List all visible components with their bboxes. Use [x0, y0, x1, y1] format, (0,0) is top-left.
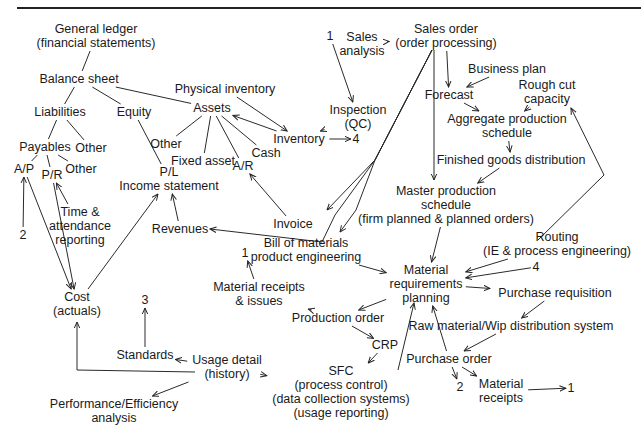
- node-label-line: Cost: [53, 290, 101, 304]
- edge-usage-detail-to-cost: [77, 322, 195, 372]
- node-label-line: reporting: [49, 233, 111, 247]
- node-label-line: (firm planned & planned orders): [358, 212, 534, 226]
- node-forecast: Forecast: [425, 88, 474, 102]
- node-label-line: 3: [142, 293, 149, 307]
- node-label-line: 1: [242, 246, 249, 260]
- node-label-line: P/L: [119, 165, 218, 179]
- node-ref-1-bottom: 1: [568, 381, 575, 395]
- node-label-line: Rough cut: [519, 78, 576, 92]
- edge-mps-to-mrp: [432, 227, 441, 262]
- node-label-line: Sales: [339, 30, 384, 44]
- node-label-line: Other: [75, 141, 106, 155]
- node-rough-cut: Rough cutcapacity: [519, 78, 576, 106]
- node-ar: A/R: [233, 159, 254, 173]
- node-finished-goods: Finished goods distribution: [437, 153, 586, 167]
- node-label-line: Routing: [483, 230, 631, 244]
- node-label-line: Finished goods distribution: [437, 153, 586, 167]
- node-cash: Cash: [251, 146, 280, 160]
- node-label-line: A/P: [14, 162, 34, 176]
- edge-balance-sheet-to-liabilities: [65, 87, 75, 104]
- node-liabilities: Liabilities: [34, 105, 85, 119]
- node-ref-1-top: 1: [327, 29, 334, 43]
- node-physical-inventory: Physical inventory: [175, 82, 276, 96]
- node-label-line: Cash: [251, 146, 280, 160]
- edge-balance-sheet-to-equity: [92, 87, 120, 104]
- node-payables: Payables: [19, 140, 70, 154]
- node-revenues: Revenues: [152, 222, 208, 236]
- node-ref-3: 3: [142, 293, 149, 307]
- node-label-line: receipts: [479, 391, 523, 405]
- node-sales-analysis: Salesanalysis: [339, 30, 384, 58]
- node-label-line: Forecast: [425, 88, 474, 102]
- edge-payables-to-ap: [32, 155, 38, 161]
- node-pl: P/LIncome statement: [119, 165, 218, 193]
- node-label-line: Payables: [19, 140, 70, 154]
- edge-assets-to-ar: [216, 116, 238, 158]
- node-performance: Performance/Efficiencyanalysis: [50, 397, 178, 425]
- node-raw-material: Raw material/Wip distribution system: [409, 319, 614, 333]
- node-label-line: requirements: [390, 277, 463, 291]
- edge-liabilities-to-liab-other: [67, 120, 84, 140]
- node-label-line: CRP: [372, 338, 398, 352]
- node-label-line: Production order: [292, 311, 384, 325]
- node-general-ledger: General ledger(financial statements): [37, 22, 156, 50]
- node-label-line: Business plan: [468, 62, 546, 76]
- node-label-line: Other: [65, 162, 96, 176]
- node-label-line: analysis: [339, 44, 384, 58]
- node-label-line: 1: [327, 29, 334, 43]
- node-material-receipts: Materialreceipts: [479, 377, 523, 405]
- node-ref-2-po: 2: [457, 380, 464, 394]
- node-label-line: 2: [20, 228, 27, 242]
- node-label-line: (order processing): [395, 36, 496, 50]
- node-assets: Assets: [193, 101, 231, 115]
- node-label-line: Aggregate production: [447, 112, 567, 126]
- node-label-line: (data collection systems): [272, 392, 410, 406]
- edge-forecast-to-aggregate: [464, 103, 479, 111]
- edge-crp-to-sfc: [368, 353, 377, 363]
- node-ref-2-left: 2: [20, 228, 27, 242]
- node-inventory: Inventory: [273, 132, 324, 146]
- node-label-line: Physical inventory: [175, 82, 276, 96]
- edge-payables-to-pay-other: [58, 155, 68, 161]
- edge-assets-to-assets-other: [176, 116, 202, 136]
- node-label-line: Performance/Efficiency: [50, 397, 178, 411]
- node-label-line: Equity: [117, 105, 152, 119]
- node-label-line: (history): [192, 367, 262, 381]
- node-label-line: Purchase requisition: [498, 286, 611, 300]
- node-label-line: Liabilities: [34, 105, 85, 119]
- node-label-line: Material receipts: [213, 280, 305, 294]
- node-pay-other: Other: [65, 162, 96, 176]
- edge-sales-order-to-forecast: [447, 51, 449, 87]
- edge-aggregate-to-finished-goods: [509, 141, 510, 152]
- edge-general-ledger-to-balance-sheet: [82, 51, 90, 71]
- node-label-line: product engineering: [251, 250, 362, 264]
- node-label-line: (usage reporting): [272, 406, 410, 420]
- node-label-line: SFC: [272, 364, 410, 378]
- edge-routing-to-mrp: [466, 259, 508, 272]
- node-label-line: schedule: [358, 198, 534, 212]
- node-ref-1-mr: 1: [242, 246, 249, 260]
- node-sales-order: Sales order(order processing): [395, 22, 496, 50]
- node-label-line: 2: [457, 380, 464, 394]
- node-label-line: P/R: [42, 168, 63, 182]
- node-purchase-order: Purchase order: [406, 352, 491, 366]
- node-label-line: Usage detail: [192, 353, 262, 367]
- edge-inventory-to-assets: [233, 115, 277, 131]
- node-label-line: planning: [390, 291, 463, 305]
- edge-assets-to-fixed-asset: [204, 116, 210, 153]
- node-label-line: General ledger: [37, 22, 156, 36]
- node-pr: P/R: [42, 168, 63, 182]
- node-label-line: Time &: [49, 205, 111, 219]
- node-label-line: Invoice: [273, 217, 313, 231]
- edge-purchase-requisition-to-raw-material: [522, 301, 545, 318]
- node-label-line: Inventory: [273, 132, 324, 146]
- node-material-receipts-issues: Material receipts& issues: [213, 280, 305, 308]
- node-label-line: Standards: [117, 348, 174, 362]
- edge-ref-2-left-to-ap: [23, 177, 24, 227]
- node-standards: Standards: [117, 348, 174, 362]
- edge-raw-material-to-purchase-order: [464, 334, 496, 351]
- node-label-line: schedule: [447, 126, 567, 140]
- edge-production-order-to-crp: [352, 326, 374, 338]
- node-label-line: Material: [390, 263, 463, 277]
- edge-usage-detail-to-performance: [153, 382, 189, 396]
